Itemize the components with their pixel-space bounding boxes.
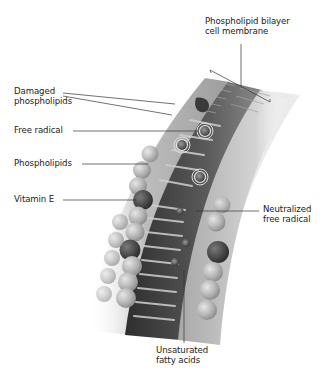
label-unsaturated-fatty-acids: Unsaturated fatty acids bbox=[156, 346, 208, 365]
label-line: fatty acids bbox=[156, 356, 208, 366]
label-line: phospholipids bbox=[14, 97, 72, 107]
label-damaged-phospholipids: Damaged phospholipids bbox=[14, 87, 72, 106]
label-phospholipid-bilayer: Phospholipid bilayer cell membrane bbox=[205, 17, 290, 36]
label-phospholipids: Phospholipids bbox=[14, 159, 72, 169]
label-text: Free radical bbox=[14, 125, 63, 135]
label-line: free radical bbox=[263, 215, 311, 225]
membrane-illustration bbox=[0, 0, 335, 380]
label-vitamin-e: Vitamin E bbox=[14, 195, 54, 205]
label-line: cell membrane bbox=[205, 27, 290, 37]
label-free-radical: Free radical bbox=[14, 126, 63, 136]
label-text: Phospholipids bbox=[14, 158, 72, 168]
label-neutralized-free-radical: Neutralized free radical bbox=[263, 205, 311, 224]
top-fade bbox=[180, 40, 335, 80]
label-text: Vitamin E bbox=[14, 194, 54, 204]
